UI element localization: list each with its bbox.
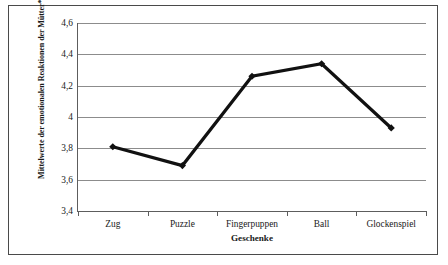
y-axis-tick-label: 3,6 (61, 175, 73, 185)
x-axis-tick-label: Puzzle (170, 219, 195, 229)
x-axis-tick-label: Ball (314, 219, 330, 229)
series-markers (109, 60, 395, 169)
x-axis-tick (148, 211, 149, 216)
y-axis-tick-label: 3,8 (61, 143, 73, 153)
y-axis-title: Mittelwerte der emotionalen Reaktionen d… (37, 0, 48, 184)
x-axis-tick (356, 211, 357, 216)
x-axis-tick (217, 211, 218, 216)
data-point-marker (109, 143, 116, 150)
data-series-line (78, 23, 426, 211)
y-axis-tick-label: 3,4 (61, 206, 73, 216)
y-axis-tick-label: 4,2 (61, 81, 73, 91)
x-axis-title: Geschenke (78, 233, 426, 243)
x-axis-tick (78, 211, 79, 216)
y-axis-tick-label: 4,6 (61, 18, 73, 28)
y-axis-tick-label: 4,4 (61, 49, 73, 59)
x-axis-tick-label: Fingerpuppen (226, 219, 278, 229)
chart-figure-frame: Mittelwerte der emotionalen Reaktionen d… (8, 5, 438, 255)
y-axis-tick-label: 4 (68, 112, 73, 122)
x-axis-tick-label: Zug (105, 219, 120, 229)
x-axis-tick (426, 211, 427, 216)
x-axis-tick (287, 211, 288, 216)
x-axis-tick-label: Glockenspiel (366, 219, 415, 229)
plot-area: 4,64,44,243,83,63,4 ZugPuzzleFingerpuppe… (77, 23, 426, 212)
